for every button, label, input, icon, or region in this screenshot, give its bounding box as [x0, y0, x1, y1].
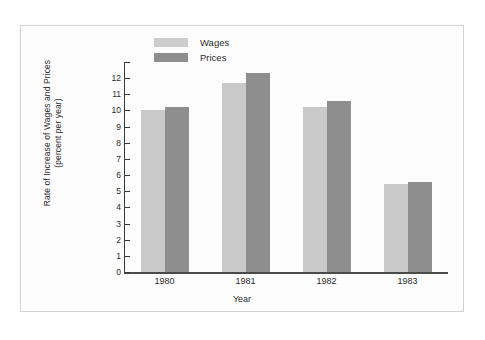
legend-swatch-prices [154, 53, 188, 62]
x-axis-line [124, 272, 448, 274]
bar-wages-1981 [222, 83, 246, 272]
y-tick-label-5: 5 [99, 187, 121, 195]
bar-prices-1980 [165, 107, 189, 272]
y-tick-label-4: 4 [99, 203, 121, 211]
x-tick-label-1982: 1982 [297, 276, 357, 286]
y-tick-0 [125, 272, 130, 273]
y-tick-label-11: 11 [99, 90, 121, 98]
x-tick-label-1983: 1983 [378, 276, 438, 286]
y-tick-label-3: 3 [99, 220, 121, 228]
y-tick-label-9: 9 [99, 123, 121, 131]
chart-figure-frame: Wages Prices Rate of Increase of Wages a… [20, 25, 464, 312]
bar-wages-1980 [141, 110, 165, 272]
bar-group-1983 [384, 62, 432, 272]
bar-wages-1983 [384, 184, 408, 272]
legend-item-wages: Wages [154, 36, 229, 49]
y-tick-label-1: 1 [99, 252, 121, 260]
y-tick-label-8: 8 [99, 139, 121, 147]
bar-wages-1982 [303, 107, 327, 272]
bar-prices-1983 [408, 182, 432, 272]
y-tick-label-12: 12 [99, 74, 121, 82]
plot-area: Wages Prices Rate of Increase of Wages a… [21, 26, 463, 311]
x-tick-label-1981: 1981 [216, 276, 276, 286]
legend-swatch-wages [154, 38, 188, 47]
y-axis-title: Rate of Increase of Wages and Prices (pe… [42, 23, 64, 243]
bar-prices-1981 [246, 73, 270, 273]
y-tick-label-7: 7 [99, 155, 121, 163]
bar-group-1982 [303, 62, 351, 272]
x-tick-label-1980: 1980 [135, 276, 195, 286]
y-tick-label-10: 10 [99, 106, 121, 114]
x-axis-title: Year [21, 294, 463, 304]
y-tick-label-2: 2 [99, 236, 121, 244]
bar-series-layer [124, 62, 448, 272]
bar-group-1980 [141, 62, 189, 272]
bar-group-1981 [222, 62, 270, 272]
y-tick-label-6: 6 [99, 171, 121, 179]
legend-label-wages: Wages [200, 37, 229, 48]
bar-prices-1982 [327, 101, 351, 272]
y-tick-label-0: 0 [99, 268, 121, 276]
